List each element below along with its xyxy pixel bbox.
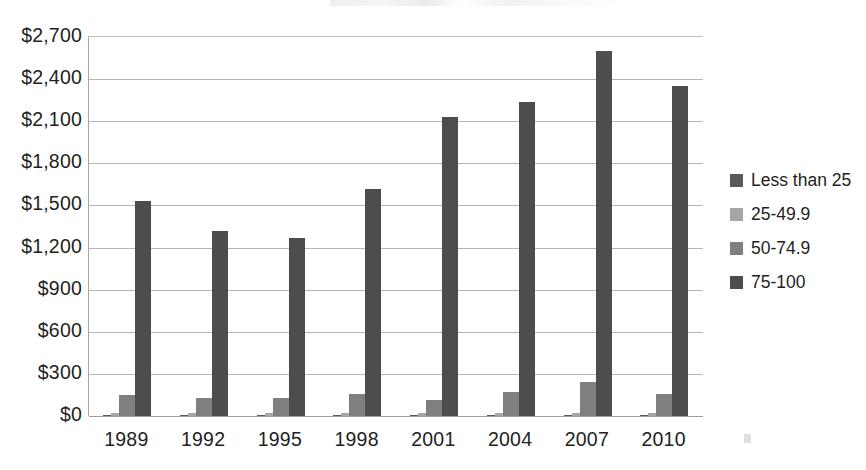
- legend-label: 50-74.9: [751, 239, 810, 258]
- bar: [196, 398, 213, 416]
- legend-item[interactable]: Less than 25: [730, 163, 866, 197]
- bar-group: [103, 37, 147, 416]
- bar: [672, 86, 688, 416]
- x-tick-label: 2007: [549, 428, 626, 450]
- bar: [519, 102, 535, 416]
- legend-item[interactable]: 75-100: [730, 265, 866, 299]
- bar: [135, 201, 151, 416]
- legend-label: 75-100: [751, 273, 806, 292]
- bar: [212, 231, 228, 416]
- bar: [503, 392, 520, 416]
- bar: [273, 398, 290, 416]
- bar-group: [564, 37, 608, 416]
- bar-group: [640, 37, 684, 416]
- y-tick-label: $2,100: [0, 110, 82, 130]
- bar-group: [257, 37, 301, 416]
- bar: [442, 117, 458, 416]
- bar: [596, 51, 612, 416]
- y-tick-label: $600: [0, 321, 82, 341]
- x-tick-label: 2010: [625, 428, 702, 450]
- bar: [426, 400, 443, 416]
- legend-swatch-icon: [730, 174, 743, 187]
- legend-swatch-icon: [730, 276, 743, 289]
- bar: [119, 395, 136, 416]
- bar: [289, 238, 305, 416]
- bar-chart: $0$300$600$900$1,200$1,500$1,800$2,100$2…: [0, 0, 866, 470]
- cropped-title-sliver: [330, 0, 620, 6]
- y-tick-label: $1,800: [0, 152, 82, 172]
- x-tick-label: 2004: [472, 428, 549, 450]
- x-tick-label: 1989: [88, 428, 165, 450]
- bar: [580, 382, 597, 416]
- bar-group: [487, 37, 531, 416]
- legend-label: 25-49.9: [751, 205, 810, 224]
- chart-legend: Less than 2525-49.950-74.975-100: [730, 163, 866, 299]
- bar: [365, 189, 381, 416]
- y-tick-label: $1,500: [0, 194, 82, 214]
- bar: [656, 394, 673, 416]
- x-tick-label: 1992: [165, 428, 242, 450]
- bars-layer: [89, 37, 703, 416]
- x-tick-label: 1998: [318, 428, 395, 450]
- y-tick-label: $2,400: [0, 68, 82, 88]
- y-tick-label: $1,200: [0, 237, 82, 257]
- x-axis-baseline: [89, 416, 703, 417]
- legend-label: Less than 25: [751, 171, 851, 190]
- x-axis: 19891992199519982001200420072010: [88, 428, 702, 458]
- x-tick-label: 1995: [242, 428, 319, 450]
- y-tick-label: $300: [0, 363, 82, 383]
- y-tick-label: $2,700: [0, 26, 82, 46]
- y-tick-label: $0: [0, 405, 82, 425]
- plot-area: [88, 36, 703, 416]
- scan-artifact: [744, 434, 751, 443]
- legend-swatch-icon: [730, 242, 743, 255]
- bar-group: [333, 37, 377, 416]
- y-axis: $0$300$600$900$1,200$1,500$1,800$2,100$2…: [0, 0, 82, 470]
- bar-group: [410, 37, 454, 416]
- legend-item[interactable]: 50-74.9: [730, 231, 866, 265]
- bar: [349, 394, 366, 416]
- bar-group: [180, 37, 224, 416]
- legend-swatch-icon: [730, 208, 743, 221]
- legend-item[interactable]: 25-49.9: [730, 197, 866, 231]
- y-tick-label: $900: [0, 279, 82, 299]
- x-tick-label: 2001: [395, 428, 472, 450]
